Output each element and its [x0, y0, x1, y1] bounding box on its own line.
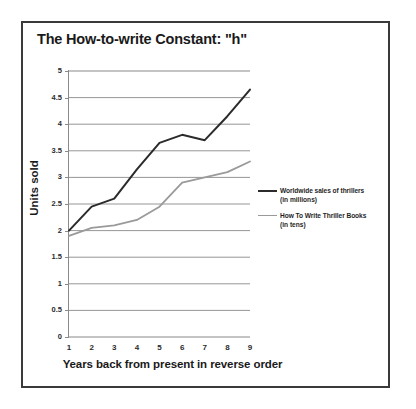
- x-tick-label: 8: [220, 343, 234, 352]
- y-axis-title: Units sold: [28, 148, 40, 228]
- chart-figure: The How-to-write Constant: "h" 00.511.52…: [0, 0, 416, 409]
- legend-item-0[interactable]: Worldwide sales of thrillers (in million…: [258, 186, 384, 204]
- y-tick-mark: [65, 71, 68, 72]
- legend-label-0: Worldwide sales of thrillers: [280, 186, 384, 195]
- plot-svg: [69, 71, 250, 337]
- y-tick-label: 1: [36, 280, 62, 288]
- x-tick-label: 7: [198, 343, 212, 352]
- series-line-1: [69, 161, 250, 235]
- chart-legend: Worldwide sales of thrillers (in million…: [258, 186, 384, 236]
- y-tick-label: 4.5: [36, 94, 62, 102]
- y-tick-mark: [65, 177, 68, 178]
- series-line-0: [69, 90, 250, 231]
- y-tick-label: 0: [36, 333, 62, 341]
- gridlines: [69, 71, 250, 337]
- legend-label-1: How To Write Thriller Books: [280, 211, 384, 220]
- x-tick-label: 3: [107, 343, 121, 352]
- x-tick-label: 2: [85, 343, 99, 352]
- legend-sublabel-0: (in millions): [280, 195, 384, 204]
- x-tick-label: 4: [130, 343, 144, 352]
- y-tick-label: 0.5: [36, 306, 62, 314]
- x-tick-label: 9: [243, 343, 257, 352]
- y-tick-mark: [65, 204, 68, 205]
- legend-sublabel-1: (in tens): [280, 220, 384, 229]
- legend-line-swatch-dark: [258, 190, 277, 192]
- y-tick-mark: [65, 310, 68, 311]
- series-lines: [69, 90, 250, 236]
- chart-title: The How-to-write Constant: "h": [37, 28, 337, 50]
- y-tick-label: 1.5: [36, 253, 62, 261]
- y-tick-mark: [65, 284, 68, 285]
- y-tick-mark: [65, 231, 68, 232]
- x-tick-label: 5: [153, 343, 167, 352]
- y-tick-label: 5: [36, 67, 62, 75]
- x-tick-label: 6: [175, 343, 189, 352]
- y-tick-mark: [65, 151, 68, 152]
- y-tick-label: 4: [36, 120, 62, 128]
- x-axis-title: Years back from present in reverse order: [55, 358, 290, 370]
- x-tick-label: 1: [62, 343, 76, 352]
- plot-area: [69, 71, 250, 337]
- legend-line-swatch-gray: [258, 215, 277, 216]
- legend-item-1[interactable]: How To Write Thriller Books (in tens): [258, 211, 384, 229]
- y-tick-mark: [65, 257, 68, 258]
- y-tick-mark: [65, 98, 68, 99]
- y-tick-mark: [65, 124, 68, 125]
- y-tick-mark: [65, 337, 68, 338]
